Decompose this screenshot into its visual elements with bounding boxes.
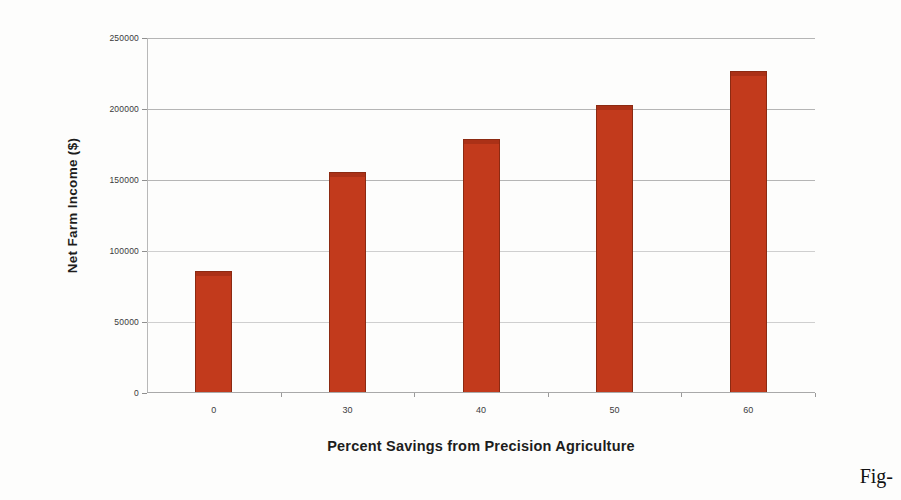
bar-top-edge — [464, 140, 499, 144]
x-tick-label: 50 — [585, 405, 645, 415]
x-axis-title: Percent Savings from Precision Agricultu… — [147, 438, 815, 454]
y-tick-mark — [142, 251, 147, 252]
y-tick-label: 0 — [19, 388, 139, 398]
x-tick-mark — [815, 393, 816, 397]
bar — [329, 172, 366, 392]
figure-caption-fragment: Fig- — [860, 465, 893, 488]
y-tick-mark — [142, 38, 147, 39]
x-tick-label: 30 — [317, 405, 377, 415]
x-tick-label: 60 — [718, 405, 778, 415]
bar — [730, 71, 767, 392]
x-tick-label: 0 — [184, 405, 244, 415]
y-tick-mark — [142, 322, 147, 323]
y-tick-mark — [142, 180, 147, 181]
y-tick-label: 250000 — [19, 33, 139, 43]
y-tick-mark — [142, 109, 147, 110]
x-tick-mark — [281, 393, 282, 397]
bar-top-edge — [196, 272, 231, 276]
bar — [596, 105, 633, 392]
gridline — [147, 109, 815, 110]
bar-top-edge — [731, 72, 766, 76]
figure-container: Net Farm Income ($) 25000020000015000010… — [0, 0, 901, 500]
y-axis-line — [147, 38, 148, 393]
y-tick-label: 150000 — [19, 175, 139, 185]
y-tick-label: 50000 — [19, 317, 139, 327]
x-tick-mark — [681, 393, 682, 397]
bar — [463, 139, 500, 392]
x-axis-line — [147, 392, 815, 393]
bar-top-edge — [330, 173, 365, 177]
bar-top-edge — [597, 106, 632, 110]
x-tick-mark — [414, 393, 415, 397]
gridline — [147, 38, 815, 39]
y-tick-mark — [142, 393, 147, 394]
x-tick-mark — [548, 393, 549, 397]
y-tick-label: 100000 — [19, 246, 139, 256]
bar — [195, 271, 232, 392]
x-tick-label: 40 — [451, 405, 511, 415]
y-tick-label: 200000 — [19, 104, 139, 114]
plot-area: 250000200000150000100000500000 030405060 — [147, 38, 815, 393]
